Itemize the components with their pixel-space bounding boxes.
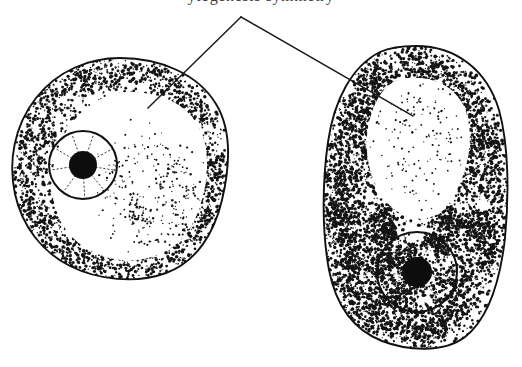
left-nucleolus: [69, 151, 97, 179]
left-cell: [6, 50, 233, 290]
cell-diagram: [0, 0, 522, 367]
right-cell: [315, 35, 516, 358]
leader-line-right: [241, 17, 413, 116]
left-cell-stipple: [6, 50, 233, 290]
right-nucleolus: [402, 257, 432, 287]
figure-root: ytogenesis symmetry: [0, 0, 522, 367]
